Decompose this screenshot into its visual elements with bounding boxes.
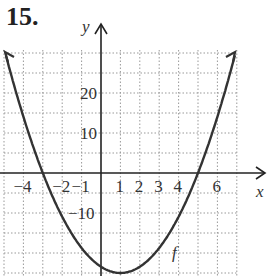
svg-text:6: 6	[212, 177, 221, 196]
svg-text:−1: −1	[72, 177, 90, 196]
curve-right-arrow-icon	[226, 52, 235, 62]
svg-text:1: 1	[115, 177, 124, 196]
y-axis-label: y	[80, 17, 90, 36]
svg-text:10: 10	[80, 124, 97, 143]
svg-text:2: 2	[135, 177, 144, 196]
svg-text:20: 20	[80, 84, 97, 103]
svg-text:−2: −2	[52, 177, 70, 196]
svg-text:−4: −4	[13, 177, 32, 196]
parabola-chart: y x −4−2−112346 2010−10 f	[0, 0, 269, 276]
svg-text:−10: −10	[68, 204, 95, 223]
x-axis-label: x	[255, 182, 264, 201]
svg-text:3: 3	[154, 177, 163, 196]
curve-label: f	[172, 243, 179, 262]
svg-text:4: 4	[174, 177, 183, 196]
